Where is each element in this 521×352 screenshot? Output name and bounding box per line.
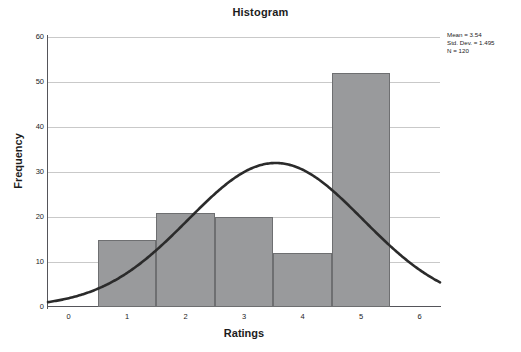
normal-curve-path [48, 163, 440, 302]
plot-area [48, 37, 440, 307]
histogram-chart: Histogram Mean = 3.54 Std. Dev. = 1.495 … [0, 0, 521, 352]
x-tick-label: 5 [349, 312, 373, 321]
x-tick-label: 4 [291, 312, 315, 321]
x-axis-label: Ratings [48, 327, 440, 339]
x-tick-label: 2 [173, 312, 197, 321]
x-tick-label: 0 [56, 312, 80, 321]
x-tick-label: 1 [115, 312, 139, 321]
normal-distribution-curve [48, 37, 440, 307]
x-tick-label: 3 [232, 312, 256, 321]
x-tick-label: 6 [408, 312, 432, 321]
y-axis-label: Frequency [12, 111, 24, 211]
